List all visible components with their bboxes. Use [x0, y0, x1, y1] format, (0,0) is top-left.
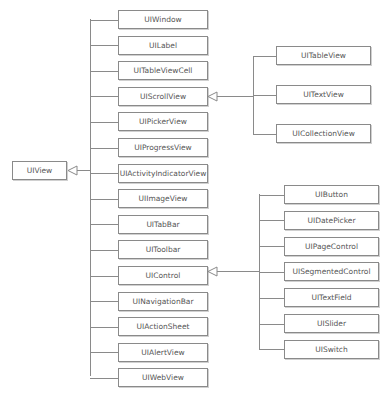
class-node: UITableViewCell	[118, 61, 208, 80]
class-node: UISwitch	[284, 340, 379, 359]
connector	[259, 220, 284, 221]
connector	[90, 45, 118, 46]
connector	[90, 276, 118, 277]
trunk-line	[90, 19, 91, 376]
class-node: UISlider	[284, 314, 379, 333]
connector	[217, 271, 259, 272]
class-node: UIImageView	[118, 189, 208, 208]
connector	[253, 134, 276, 135]
class-node: UILabel	[118, 36, 208, 55]
class-node: UIWindow	[118, 10, 208, 29]
class-node: UIProgressView	[118, 138, 208, 157]
class-node: UIAlertView	[118, 343, 208, 362]
class-node: UITextView	[276, 85, 371, 104]
connector	[259, 246, 284, 247]
connector	[259, 272, 284, 273]
connector	[90, 20, 118, 21]
class-node: UIPickerView	[118, 112, 208, 131]
class-node: UITabBar	[118, 215, 208, 234]
connector	[217, 96, 253, 97]
class-node: UIToolbar	[118, 240, 208, 259]
class-node: UIDatePicker	[284, 211, 379, 230]
connector	[90, 250, 118, 251]
class-node: UICollectionView	[276, 124, 371, 143]
connector	[90, 173, 118, 174]
connector	[253, 95, 276, 96]
class-node: UIActionSheet	[118, 317, 208, 336]
connector	[90, 378, 118, 379]
connector	[77, 170, 90, 171]
connector	[90, 301, 118, 302]
connector	[90, 148, 118, 149]
class-node: UIActivityIndicatorView	[118, 164, 208, 183]
connector	[90, 122, 118, 123]
connector	[259, 324, 284, 325]
connector	[253, 56, 276, 57]
class-node: UIScrollView	[118, 87, 208, 106]
class-node: UIPageControl	[284, 237, 379, 256]
class-node: UIWebView	[118, 368, 208, 387]
connector	[90, 352, 118, 353]
connector	[259, 349, 284, 350]
class-node: UISegmentedControl	[284, 262, 379, 281]
node-uiview: UIView	[12, 161, 67, 180]
connector	[259, 195, 284, 196]
class-node: UIButton	[284, 185, 379, 204]
inheritance-diagram: UIView UIWindowUILabelUITableViewCellUIS…	[0, 0, 392, 395]
class-node: UIControl	[118, 266, 208, 285]
connector	[90, 224, 118, 225]
connector	[90, 96, 118, 97]
class-node: UINavigationBar	[118, 292, 208, 311]
connector	[90, 71, 118, 72]
connector	[90, 199, 118, 200]
class-node: UITextField	[284, 288, 379, 307]
class-node: UITableView	[276, 46, 371, 65]
connector	[90, 327, 118, 328]
connector	[259, 298, 284, 299]
